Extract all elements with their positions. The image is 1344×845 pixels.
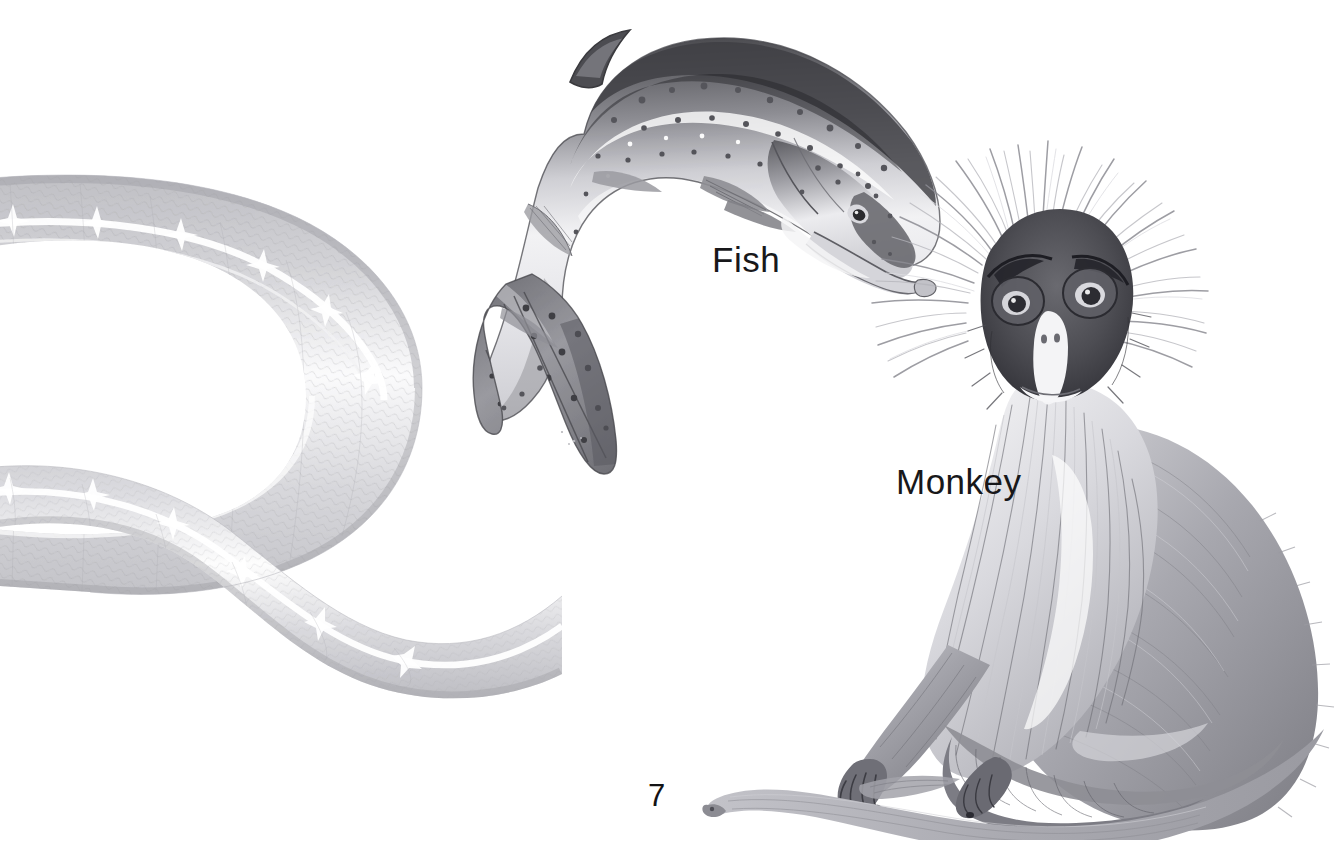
monkey-foot	[956, 757, 1012, 818]
monkey-head-fur	[872, 141, 1208, 377]
page-number: 7	[648, 780, 665, 811]
fish-eye	[844, 201, 872, 227]
fish-illustration	[466, 16, 946, 476]
monkey-illustration	[700, 125, 1344, 840]
fish-label: Fish	[712, 242, 780, 277]
paper-specks	[556, 424, 596, 450]
snake-illustration	[0, 140, 590, 700]
monkey-hand	[838, 759, 887, 817]
monkey-label: Monkey	[896, 464, 1022, 499]
monkey-eye-left	[1002, 291, 1030, 315]
monkey-eye-right	[1075, 283, 1105, 308]
book-page: Fish Monkey 7	[0, 0, 1344, 845]
monkey-face	[965, 209, 1151, 409]
